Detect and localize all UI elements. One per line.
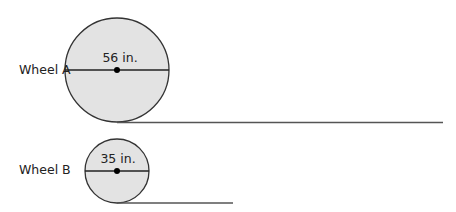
wheel-b-diameter-label: 35 in. xyxy=(100,151,135,166)
wheel-b xyxy=(85,139,233,203)
wheel-a xyxy=(65,18,443,123)
wheel-a-center xyxy=(114,67,120,73)
wheel-b-center xyxy=(114,168,120,174)
wheels-diagram xyxy=(0,0,456,212)
wheel-a-diameter-label: 56 in. xyxy=(102,50,137,65)
wheel-b-label: Wheel B xyxy=(19,162,71,177)
wheel-a-label: Wheel A xyxy=(19,62,71,77)
